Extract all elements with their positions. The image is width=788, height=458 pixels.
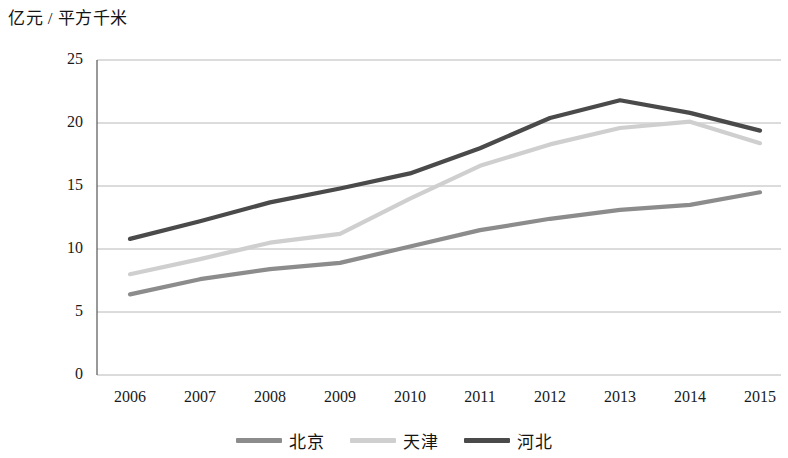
y-axis-tick-label: 10 [49,240,83,256]
x-axis-tick-label: 2006 [100,389,160,405]
gridlines-group [97,60,781,375]
legend-item-河北[interactable]: 河北 [464,428,552,453]
legend-swatch-icon [236,438,282,443]
x-axis-tick-label: 2010 [380,389,440,405]
line-chart: 亿元 / 平方千米 0510152025 2006200720082009201… [0,0,788,458]
x-axis-tick-label: 2012 [520,389,580,405]
legend-item-天津[interactable]: 天津 [350,428,438,453]
legend-item-北京[interactable]: 北京 [236,428,324,453]
x-axis-tick-label: 2014 [660,389,720,405]
chart-legend: 北京天津河北 [0,428,788,453]
x-axis-tick-label: 2013 [590,389,650,405]
y-axis-tick-label: 20 [49,114,83,130]
x-axis-tick-label: 2015 [730,389,788,405]
x-axis-tick-label: 2008 [240,389,300,405]
legend-label: 天津 [403,428,438,453]
y-axis-tick-label: 15 [49,177,83,193]
legend-label: 北京 [289,428,324,453]
x-axis-tick-label: 2007 [170,389,230,405]
legend-swatch-icon [350,438,396,443]
series-line-河北 [130,100,760,239]
series-line-天津 [130,122,760,275]
y-axis-tick-label: 5 [49,303,83,319]
plot-area: 0510152025 20062007200820092010201120122… [0,0,788,458]
y-axis-tick-label: 0 [49,366,83,382]
y-axis-tick-label: 25 [49,51,83,67]
series-lines-group [130,100,760,294]
legend-swatch-icon [464,438,510,443]
series-line-北京 [130,192,760,294]
x-axis-tick-label: 2011 [450,389,510,405]
legend-label: 河北 [517,428,552,453]
x-axis-tick-label: 2009 [310,389,370,405]
